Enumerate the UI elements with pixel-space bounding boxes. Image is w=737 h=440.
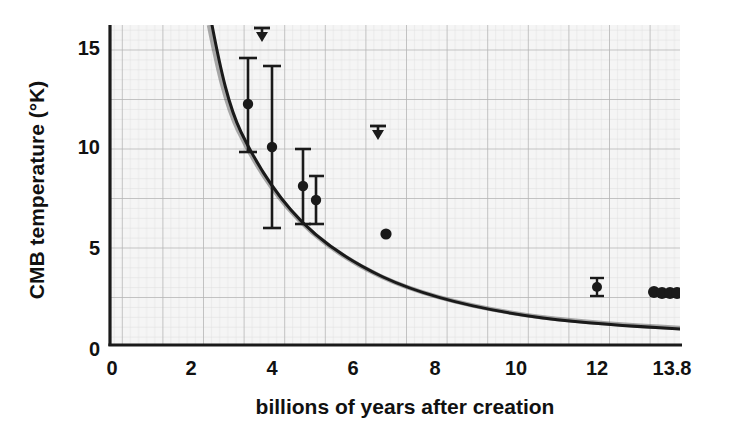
cmb-temperature-figure: 15 10 5 0 0 2 4 6 8 10 12 13.8 billions …: [0, 0, 737, 440]
y-tick-label: 10: [78, 136, 100, 158]
x-tick-label: 12: [586, 357, 608, 379]
data-point-marker: [671, 287, 683, 299]
data-point-marker: [243, 99, 253, 109]
x-tick-label: 13.8: [653, 357, 692, 379]
chart-canvas: 15 10 5 0 0 2 4 6 8 10 12 13.8 billions …: [0, 0, 737, 440]
x-tick-label: 8: [429, 357, 440, 379]
data-point-marker: [592, 282, 602, 292]
x-axis-title: billions of years after creation: [256, 395, 555, 418]
data-point-marker: [311, 195, 321, 205]
data-point-marker: [267, 142, 277, 152]
x-tick-label: 4: [266, 357, 278, 379]
x-tick-label: 2: [185, 357, 196, 379]
x-tick-label: 0: [106, 357, 117, 379]
y-tick-label: 0: [89, 338, 100, 360]
y-tick-labels: 15 10 5 0: [78, 37, 100, 360]
data-point-with-errorbar: [380, 228, 391, 239]
y-tick-label: 5: [89, 237, 100, 259]
y-axis-title: CMB temperature (°K): [25, 81, 48, 299]
data-point-marker: [380, 228, 391, 239]
y-tick-label: 15: [78, 37, 100, 59]
x-tick-label: 10: [505, 357, 527, 379]
x-tick-labels: 0 2 4 6 8 10 12 13.8: [106, 357, 691, 379]
x-tick-label: 6: [347, 357, 358, 379]
data-point-marker: [298, 181, 308, 191]
